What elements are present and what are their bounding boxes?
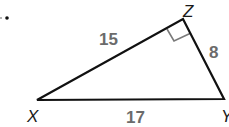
right-angle-marker [167, 29, 191, 41]
side-length-zy: 8 [209, 44, 218, 61]
problem-bullet-dot [5, 16, 9, 20]
vertex-label-x: X [27, 108, 38, 125]
side-length-xz: 15 [99, 31, 118, 48]
triangle-xyz [37, 19, 224, 100]
vertex-label-y: Y [221, 108, 229, 125]
side-length-xy: 17 [126, 109, 145, 126]
right-triangle-figure: Z X Y 15 8 17 [0, 0, 229, 127]
vertex-label-z: Z [183, 3, 193, 20]
problem-number-fragment [0, 17, 2, 19]
